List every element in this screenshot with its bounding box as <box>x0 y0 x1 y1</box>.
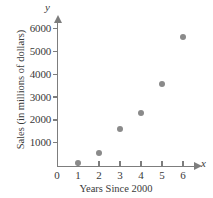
y-tick-label: 5000 <box>1 46 51 57</box>
x-axis-title: Years Since 2000 <box>36 183 196 194</box>
y-tick-mark <box>53 119 58 120</box>
y-tick-mark <box>53 51 58 52</box>
y-axis-title: Sales (in millions of dollars) <box>15 22 26 158</box>
y-tick-mark <box>53 96 58 97</box>
x-tick-label: 2 <box>89 170 109 181</box>
y-axis-arrow-icon <box>54 15 62 23</box>
y-tick-label: 2000 <box>1 114 51 125</box>
x-tick-label: 6 <box>173 170 193 181</box>
y-tick-label: 1000 <box>1 137 51 148</box>
data-point <box>159 81 165 87</box>
x-tick-label: 1 <box>68 170 88 181</box>
y-axis-line <box>57 22 58 166</box>
y-tick-label: 3000 <box>1 92 51 103</box>
data-point <box>117 126 123 132</box>
x-tick-mark <box>182 161 183 166</box>
x-axis-variable-label: x <box>201 158 206 169</box>
x-tick-label: 3 <box>110 170 130 181</box>
x-tick-mark <box>119 161 120 166</box>
x-tick-label: 5 <box>152 170 172 181</box>
y-tick-label-group: 600050004000300020001000 <box>0 0 51 198</box>
x-tick-mark <box>140 161 141 166</box>
y-tick-mark <box>53 142 58 143</box>
x-tick-mark <box>161 161 162 166</box>
x-tick-mark <box>98 161 99 166</box>
x-tick-label: 0 <box>47 170 67 181</box>
data-point <box>96 150 102 156</box>
y-tick-label: 6000 <box>1 23 51 34</box>
scatter-plot-figure: y x 600050004000300020001000 0123456 Sal… <box>0 0 213 198</box>
y-tick-label: 4000 <box>1 69 51 80</box>
data-point <box>138 110 144 116</box>
data-point <box>180 34 186 40</box>
y-tick-mark <box>53 28 58 29</box>
x-tick-label: 4 <box>131 170 151 181</box>
y-tick-mark <box>53 74 58 75</box>
